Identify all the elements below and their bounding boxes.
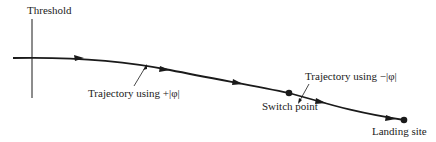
direction-arrow-icon xyxy=(232,79,243,85)
switch-point-marker xyxy=(286,90,293,97)
switch-point-label: Switch point xyxy=(262,100,318,112)
trajectory-minus-label: Trajectory using −|φ| xyxy=(305,70,397,82)
trajectory-diagram: Threshold Trajectory using +|φ| Switch p… xyxy=(0,0,436,142)
direction-arrow-icon xyxy=(74,55,84,61)
trajectory-path xyxy=(13,58,404,120)
landing-site-marker xyxy=(401,117,408,124)
trajectory-plus-label: Trajectory using +|φ| xyxy=(88,87,180,99)
threshold-label: Threshold xyxy=(27,4,72,16)
landing-site-label: Landing site xyxy=(372,125,427,137)
